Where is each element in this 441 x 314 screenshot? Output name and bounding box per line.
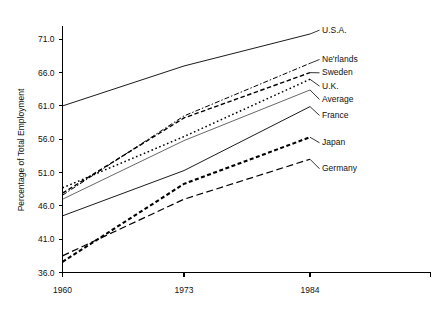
series-line-germany [63, 159, 311, 256]
y-tick-label: 66.0 [38, 68, 55, 78]
y-axis-title-group: Percentage of Total Employment [16, 88, 26, 211]
series-line-france [63, 107, 311, 216]
series-group [63, 34, 311, 262]
series-leader-line [310, 79, 320, 86]
series-leader-line [310, 59, 320, 63]
series-label-sweden: Sweden [322, 67, 353, 77]
y-tick-label: 51.0 [38, 168, 55, 178]
series-line-ne-rlands [63, 63, 311, 195]
series-leader-line [310, 107, 320, 116]
series-line-u-s-a [63, 34, 311, 106]
y-axis-title: Percentage of Total Employment [16, 88, 26, 211]
series-leader-lines [310, 30, 320, 169]
y-axis-ticks: 36.041.046.051.056.061.066.071.0 [38, 34, 63, 277]
series-label-u-k: U.K. [322, 81, 339, 91]
series-label-japan: Japan [322, 137, 345, 147]
x-tick-label: 1984 [301, 285, 320, 295]
line-chart: Percentage of Total Employment 36.041.04… [0, 0, 441, 314]
x-tick-label: 1973 [175, 285, 194, 295]
y-tick-label: 61.0 [38, 101, 55, 111]
chart-container: Percentage of Total Employment 36.041.04… [0, 0, 441, 314]
axis-lines [63, 26, 431, 273]
series-label-germany: Germany [322, 163, 358, 173]
y-tick-label: 36.0 [38, 268, 55, 278]
series-label-u-s-a: U.S.A. [322, 25, 347, 35]
series-leader-line [310, 137, 320, 142]
series-label-group: U.S.A.Ne'rlandsSwedenU.K.AverageFranceJa… [322, 25, 358, 174]
y-tick-label: 46.0 [38, 201, 55, 211]
series-leader-line [310, 159, 320, 168]
series-leader-line [310, 90, 320, 99]
y-tick-label: 56.0 [38, 134, 55, 144]
series-label-france: France [322, 110, 349, 120]
series-line-japan [63, 137, 311, 262]
series-label-ne-rlands: Ne'rlands [322, 54, 358, 64]
y-tick-label: 41.0 [38, 234, 55, 244]
series-leader-line [310, 30, 320, 34]
series-label-average: Average [322, 94, 354, 104]
series-line-sweden [63, 73, 311, 194]
x-tick-label: 1960 [53, 285, 72, 295]
x-axis-ticks: 196019731984 [53, 273, 430, 295]
y-tick-label: 71.0 [38, 34, 55, 44]
